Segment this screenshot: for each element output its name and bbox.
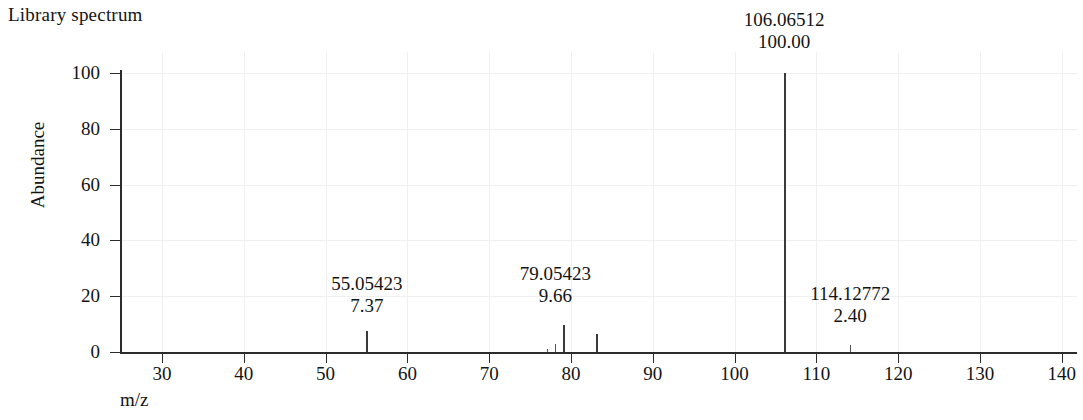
x-axis-tick [898,354,899,363]
y-axis-tick [110,240,120,241]
x-axis-tick-label: 70 [459,363,519,384]
spectrum-peak [547,349,548,352]
x-axis-tick [1062,354,1063,363]
peak-abundance-label: 2.40 [760,305,940,327]
x-axis-tick-label: 120 [868,363,928,384]
y-axis-tick-label: 100 [48,63,100,82]
spectrum-peak [563,325,565,352]
gridline-vertical [1062,52,1063,352]
peak-annotation: 106.06512100.00 [694,9,874,53]
gridline-vertical [653,52,654,352]
x-axis-tick [980,354,981,363]
y-axis-line [120,70,122,353]
x-axis-tick [571,354,572,363]
x-axis-tick [735,354,736,363]
y-axis-tick-label: 80 [48,119,100,138]
spectrum-peak [555,344,556,352]
peak-mz-label: 55.05423 [277,273,457,295]
peak-annotation: 55.054237.37 [277,273,457,317]
x-axis-tick [326,354,327,363]
gridline-horizontal [120,240,1077,241]
gridline-horizontal [120,73,1077,74]
y-axis-tick-label: 60 [48,175,100,194]
gridline-vertical [162,52,163,352]
y-axis-tick-label: 0 [48,342,100,361]
peak-annotation: 114.127722.40 [760,283,940,327]
x-axis-tick-label: 40 [214,363,274,384]
peak-abundance-label: 9.66 [465,285,645,307]
page-title: Library spectrum [8,4,143,26]
gridline-vertical [244,52,245,352]
x-axis-tick-label: 110 [786,363,846,384]
x-axis-tick-label: 90 [623,363,683,384]
x-axis-tick [489,354,490,363]
x-axis-tick [816,354,817,363]
spectrum-peak [596,334,598,352]
y-axis-tick [110,185,120,186]
gridline-horizontal [120,185,1077,186]
peak-annotation: 79.054239.66 [465,263,645,307]
x-axis-tick-label: 50 [296,363,356,384]
gridline-vertical [489,52,490,352]
peak-mz-label: 106.06512 [694,9,874,31]
y-axis-tick [110,296,120,297]
y-axis-tick [110,129,120,130]
peak-abundance-label: 7.37 [277,295,457,317]
x-axis-tick [653,354,654,363]
peak-mz-label: 79.05423 [465,263,645,285]
y-axis-title: Abundance [28,105,48,225]
x-axis-tick-label: 100 [705,363,765,384]
x-axis-tick [244,354,245,363]
x-axis-tick-label: 30 [132,363,192,384]
gridline-vertical [735,52,736,352]
x-axis-title: m/z [120,390,149,410]
gridline-horizontal [120,129,1077,130]
x-axis-tick-label: 80 [541,363,601,384]
y-axis-tick-label: 40 [48,230,100,249]
x-axis-tick [162,354,163,363]
x-axis-tick-label: 60 [377,363,437,384]
library-spectrum-figure: Library spectrum Abundance m/z 020406080… [0,0,1083,420]
x-axis-tick [407,354,408,363]
x-axis-tick-label: 140 [1032,363,1083,384]
x-axis-line [120,352,1077,354]
spectrum-peak [850,345,851,352]
gridline-vertical [571,52,572,352]
y-axis-tick-label: 20 [48,286,100,305]
spectrum-peak [366,331,368,352]
y-axis-tick [110,73,120,74]
peak-mz-label: 114.12772 [760,283,940,305]
x-axis-tick-label: 130 [950,363,1010,384]
peak-abundance-label: 100.00 [694,31,874,53]
y-axis-tick [110,352,120,353]
gridline-vertical [980,52,981,352]
